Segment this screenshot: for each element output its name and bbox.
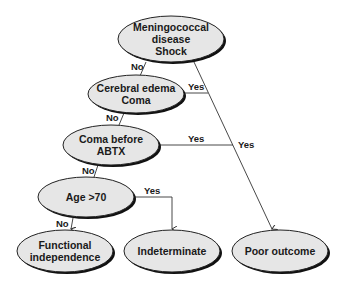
label-age-no: No [56,218,69,229]
node-cerebral-line2: Coma [121,94,150,106]
node-coma-line1: Coma before [79,133,143,145]
node-age: Age >70 [38,177,136,219]
edge-age-yes [135,197,172,229]
edge-cerebral-no [119,113,124,125]
node-indeterminate: Indeterminate [124,230,222,274]
node-cerebral-line1: Cerebral edema [97,82,176,94]
node-root: Meningococcal disease Shock [118,16,226,64]
node-indeterminate-line1: Indeterminate [138,245,207,257]
node-functional-line1: Functional [38,239,91,251]
node-cerebral: Cerebral edema Coma [88,75,186,115]
node-coma-line2: ABTX [97,145,126,157]
node-root-line1: Meningococcal [133,21,209,33]
edge-root-yes [194,62,272,229]
label-age-yes: Yes [144,185,160,196]
label-cerebral-yes: Yes [188,81,204,92]
label-coma-no: No [82,165,95,176]
node-root-line3: Shock [155,45,187,57]
node-poor-line1: Poor outcome [245,245,316,257]
label-coma-yes: Yes [188,133,204,144]
edge-age-no [71,218,73,229]
node-functional-independence: Functional independence [17,230,115,274]
label-root-no: No [131,61,144,72]
node-coma-before-abtx: Coma before ABTX [63,125,161,167]
node-age-line1: Age >70 [66,191,107,203]
node-poor-outcome: Poor outcome [232,230,330,274]
node-functional-line2: independence [30,251,101,263]
decision-tree-diagram: Meningococcal disease Shock Cerebral ede… [0,0,344,286]
label-root-yes: Yes [238,139,254,150]
node-root-line2: disease [152,33,191,45]
label-cerebral-no: No [106,112,119,123]
